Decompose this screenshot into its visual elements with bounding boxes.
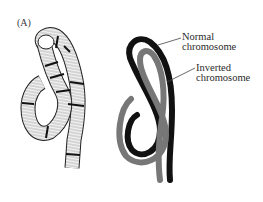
normal-label-line2: chromosome: [182, 42, 236, 52]
normal-leader-line: [158, 38, 181, 45]
schematic-chromosomes: [119, 38, 195, 180]
inverted-label-line2: chromosome: [196, 73, 250, 83]
inverted-chromosome-label: Inverted chromosome: [196, 63, 250, 83]
diagram-canvas: [0, 0, 263, 202]
normal-chromosome-label: Normal chromosome: [182, 32, 236, 52]
banded-chromosome-drawing: [22, 35, 84, 168]
inverted-chromosome-strand: [119, 51, 166, 180]
